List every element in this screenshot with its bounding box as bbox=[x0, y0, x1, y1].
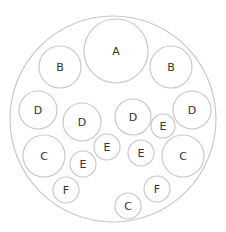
node-e: E bbox=[94, 134, 120, 160]
node-f: F bbox=[53, 177, 79, 203]
node-d: D bbox=[63, 103, 101, 141]
node-label: D bbox=[188, 104, 196, 117]
node-label: E bbox=[104, 141, 111, 154]
node-label: D bbox=[78, 116, 86, 129]
node-d: D bbox=[173, 91, 211, 129]
node-b: B bbox=[150, 46, 192, 88]
node-label: E bbox=[80, 158, 87, 171]
node-label: C bbox=[40, 150, 48, 163]
node-label: E bbox=[138, 147, 145, 160]
node-a: A bbox=[84, 19, 148, 83]
node-c: C bbox=[23, 135, 65, 177]
node-e: E bbox=[151, 114, 175, 138]
node-c: C bbox=[115, 193, 141, 219]
node-label: A bbox=[112, 45, 120, 58]
node-e: E bbox=[70, 151, 96, 177]
circle-packing-diagram: ABBDDDDECEEECFFC bbox=[0, 0, 226, 232]
node-label: D bbox=[129, 111, 137, 124]
node-label: B bbox=[167, 61, 175, 74]
node-c: C bbox=[162, 135, 204, 177]
node-label: F bbox=[63, 184, 69, 197]
node-label: C bbox=[124, 200, 132, 213]
node-label: D bbox=[34, 104, 42, 117]
node-label: C bbox=[179, 150, 187, 163]
node-label: E bbox=[160, 120, 167, 133]
node-e: E bbox=[128, 140, 154, 166]
node-d: D bbox=[19, 91, 57, 129]
node-label: F bbox=[154, 183, 160, 196]
node-b: B bbox=[39, 46, 81, 88]
node-d: D bbox=[115, 99, 151, 135]
node-label: B bbox=[56, 61, 64, 74]
node-f: F bbox=[144, 176, 170, 202]
